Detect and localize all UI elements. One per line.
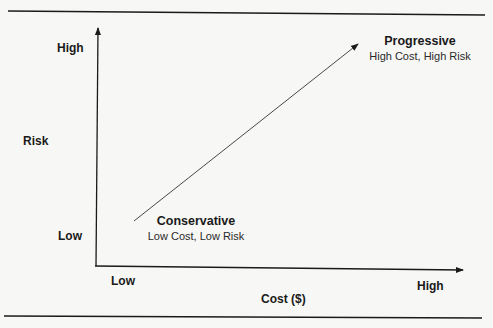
progressive-node: Progressive High Cost, High Risk: [360, 34, 480, 62]
y-axis-title: Risk: [23, 134, 48, 148]
conservative-subtitle: Low Cost, Low Risk: [146, 230, 246, 242]
trend-arrow: [134, 44, 358, 221]
y-axis-low-label: Low: [58, 229, 82, 243]
x-axis-arrow: [95, 266, 463, 270]
x-axis-high-label: High: [417, 279, 444, 293]
top-divider: [8, 11, 485, 15]
bottom-divider: [4, 316, 482, 318]
progressive-title: Progressive: [360, 34, 480, 48]
x-axis-title: Cost ($): [261, 292, 306, 306]
conservative-node: Conservative Low Cost, Low Risk: [146, 214, 246, 242]
progressive-subtitle: High Cost, High Risk: [360, 50, 480, 62]
y-axis-high-label: High: [57, 41, 84, 55]
x-axis-low-label: Low: [111, 274, 135, 288]
y-axis-arrow: [96, 28, 98, 266]
conservative-title: Conservative: [146, 214, 246, 228]
